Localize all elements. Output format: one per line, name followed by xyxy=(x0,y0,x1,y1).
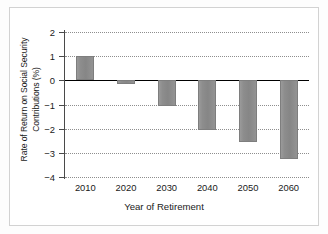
gridline xyxy=(65,129,309,130)
y-tick-label: −2 xyxy=(33,123,55,134)
x-tick-label: 2040 xyxy=(197,182,218,193)
x-tick-label: 2060 xyxy=(278,182,299,193)
y-tick-label: −4 xyxy=(33,172,55,183)
chart-figure: Rate of Return on Social Security Contri… xyxy=(0,0,328,234)
gridline xyxy=(65,153,309,154)
y-tick-label: 2 xyxy=(33,27,55,38)
x-tick-label: 2010 xyxy=(75,182,96,193)
x-tick-label: 2020 xyxy=(116,182,137,193)
bar xyxy=(158,80,176,105)
plot-area xyxy=(65,32,309,177)
y-tick-label: 0 xyxy=(33,75,55,86)
gridline xyxy=(65,56,309,57)
bar xyxy=(117,80,135,84)
zero-baseline xyxy=(65,80,309,81)
y-tick-label: −3 xyxy=(33,147,55,158)
bar xyxy=(239,80,257,142)
gridline xyxy=(65,32,309,33)
gridline xyxy=(65,177,309,178)
y-tick-label: 1 xyxy=(33,51,55,62)
bar xyxy=(76,56,94,80)
x-axis-title: Year of Retirement xyxy=(0,201,328,212)
bar xyxy=(280,80,298,159)
y-axis-title-line-1: Rate of Return on Social Security xyxy=(19,11,31,189)
x-tick-label: 2030 xyxy=(156,182,177,193)
gridline xyxy=(65,105,309,106)
y-tick-label: −1 xyxy=(33,99,55,110)
x-tick-label: 2050 xyxy=(238,182,259,193)
bar xyxy=(198,80,216,130)
